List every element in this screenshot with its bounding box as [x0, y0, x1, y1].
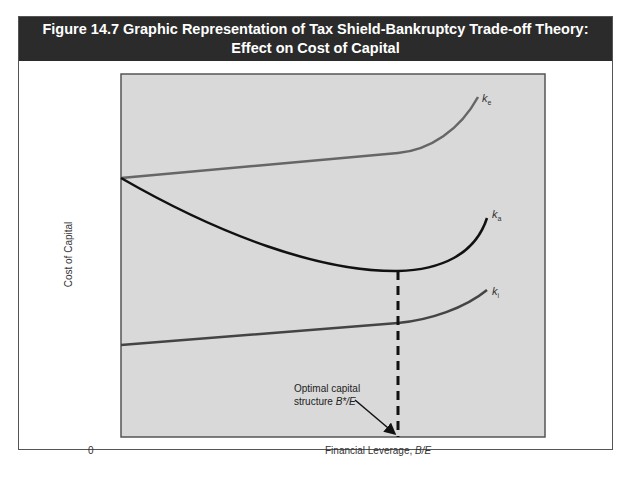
label-ke: ke — [482, 92, 491, 106]
x-origin-label: 0 — [88, 445, 94, 456]
label-ki: ki — [492, 285, 499, 299]
label-ka: ka — [492, 208, 501, 222]
optimal-structure-annotation: Optimal capital structure B*/E — [294, 382, 360, 408]
chart-plot — [0, 0, 634, 495]
y-axis-label: Cost of Capital — [63, 205, 74, 305]
x-axis-label: Financial Leverage, B/E — [325, 445, 431, 456]
